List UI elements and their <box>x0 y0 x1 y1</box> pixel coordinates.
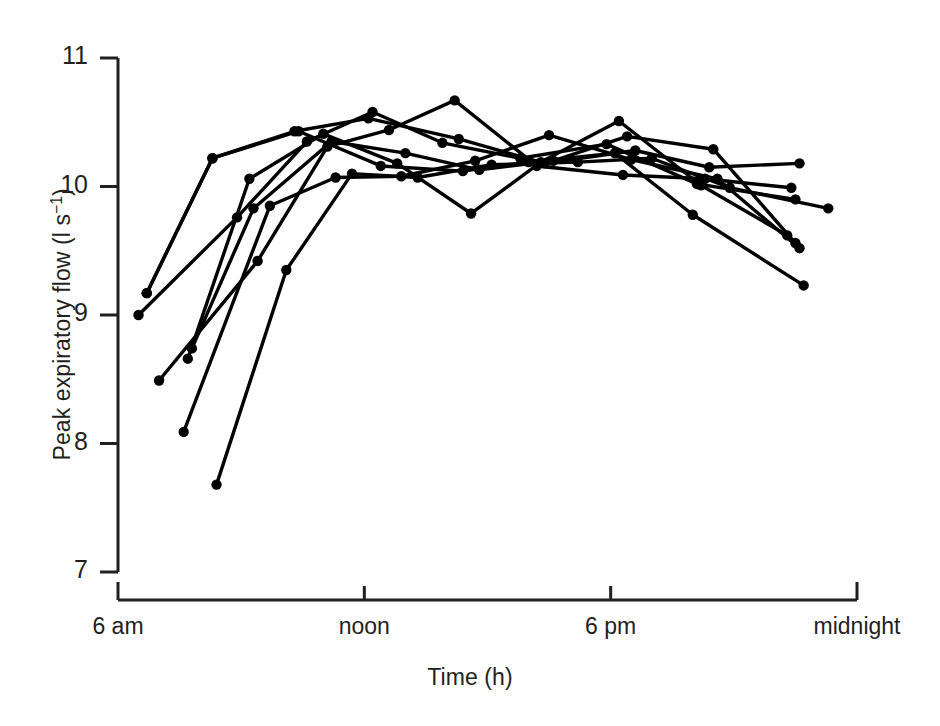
y-tick-label: 11 <box>28 41 88 70</box>
data-point-marker <box>187 343 197 353</box>
data-point-marker <box>794 158 804 168</box>
data-point-marker <box>688 210 698 220</box>
data-point-marker <box>318 129 328 139</box>
x-axis-ticks <box>118 582 857 600</box>
data-point-marker <box>183 353 193 363</box>
x-tick-label: noon <box>274 613 454 640</box>
x-tick-label: 6 pm <box>521 613 701 640</box>
data-point-marker <box>786 183 796 193</box>
data-point-marker <box>154 375 164 385</box>
data-point-marker <box>293 126 303 136</box>
series-line <box>147 118 800 293</box>
data-point-marker <box>244 174 254 184</box>
data-point-marker <box>347 168 357 178</box>
data-point-marker <box>622 131 632 141</box>
data-point-marker <box>454 134 464 144</box>
chart-figure: Peak expiratory flow (l s−1) Time (h) 78… <box>0 0 940 726</box>
x-axis-title: Time (h) <box>0 664 940 691</box>
data-point-marker <box>384 125 394 135</box>
y-tick-label: 9 <box>28 298 88 327</box>
axes <box>100 58 857 600</box>
data-point-marker <box>470 156 480 166</box>
data-point-marker <box>794 243 804 253</box>
data-point-marker <box>614 116 624 126</box>
y-axis-title-exponent: −1 <box>48 196 65 214</box>
data-series <box>211 153 833 490</box>
data-point-marker <box>437 138 447 148</box>
data-point-marker <box>142 288 152 298</box>
data-point-marker <box>376 161 386 171</box>
data-point-marker <box>704 162 714 172</box>
data-point-marker <box>544 130 554 140</box>
data-point-marker <box>133 310 143 320</box>
data-point-marker <box>823 203 833 213</box>
data-point-marker <box>696 180 706 190</box>
y-axis-ticks <box>100 58 118 572</box>
data-series-group <box>133 95 833 490</box>
data-point-marker <box>211 479 221 489</box>
y-tick-label: 10 <box>28 170 88 199</box>
data-point-marker <box>647 153 657 163</box>
data-point-marker <box>207 153 217 163</box>
data-point-marker <box>265 201 275 211</box>
data-series <box>154 95 797 386</box>
data-point-marker <box>523 157 533 167</box>
data-series <box>178 130 804 437</box>
data-point-marker <box>252 256 262 266</box>
data-point-marker <box>178 427 188 437</box>
y-axis-title-main: Peak expiratory flow (l s <box>49 214 75 461</box>
data-point-marker <box>458 166 468 176</box>
data-point-marker <box>248 203 258 213</box>
data-point-marker <box>400 148 410 158</box>
data-point-marker <box>725 183 735 193</box>
data-point-marker <box>466 208 476 218</box>
x-tick-label: midnight <box>767 613 940 640</box>
x-tick-label: 6 am <box>28 613 208 640</box>
data-point-marker <box>618 170 628 180</box>
data-point-marker <box>330 172 340 182</box>
data-point-marker <box>413 172 423 182</box>
data-point-marker <box>708 144 718 154</box>
data-point-marker <box>367 107 377 117</box>
y-tick-label: 7 <box>28 555 88 584</box>
y-tick-label: 8 <box>28 427 88 456</box>
data-point-marker <box>281 265 291 275</box>
data-point-marker <box>610 148 620 158</box>
data-point-marker <box>798 280 808 290</box>
data-point-marker <box>449 95 459 105</box>
